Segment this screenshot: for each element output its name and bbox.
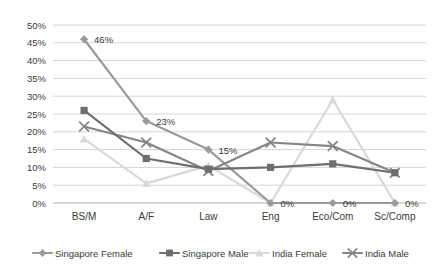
series-line — [84, 100, 395, 203]
series-lines — [84, 39, 395, 203]
marker-square — [166, 250, 173, 257]
marker-diamond — [39, 249, 47, 257]
marker-square — [391, 169, 398, 176]
data-label: 0% — [405, 198, 419, 209]
marker-square — [205, 166, 212, 173]
x-axis-tick-label: Eco/Com — [312, 211, 353, 222]
marker-triangle — [329, 96, 337, 104]
y-axis-tick-label: 35% — [27, 73, 47, 84]
x-axis-tick-label: Law — [199, 211, 218, 222]
y-axis-tick-label: 45% — [27, 37, 47, 48]
series-line — [84, 110, 395, 172]
marker-diamond — [329, 199, 337, 207]
y-axis-tick-label: 5% — [32, 180, 46, 191]
y-axis-ticks: 0%5%10%15%20%25%30%35%40%45%50% — [27, 20, 47, 209]
marker-square — [329, 160, 336, 167]
marker-triangle — [80, 135, 88, 143]
marker-square — [143, 155, 150, 162]
y-axis-tick-label: 25% — [27, 109, 47, 120]
legend-label: Singapore Male — [182, 248, 249, 259]
y-axis-tick-label: 20% — [27, 126, 47, 137]
data-label: 46% — [94, 34, 114, 45]
y-axis-tick-label: 0% — [32, 198, 46, 209]
data-label: 0% — [281, 198, 295, 209]
legend-item[interactable]: India Male — [343, 248, 409, 259]
marker-square — [267, 164, 274, 171]
legend-item[interactable]: India Female — [250, 248, 327, 259]
legend-label: India Female — [272, 248, 327, 259]
y-axis-tick-label: 10% — [27, 162, 47, 173]
x-axis-tick-label: BS/M — [72, 211, 96, 222]
x-axis-tick-label: Eng — [262, 211, 280, 222]
legend-item[interactable]: Singapore Female — [33, 248, 133, 259]
legend: Singapore FemaleSingapore MaleIndia Fema… — [33, 248, 409, 259]
marker-square — [80, 107, 87, 114]
line-chart: 0%5%10%15%20%25%30%35%40%45%50% BS/MA/FL… — [0, 0, 435, 272]
y-axis-tick-label: 40% — [27, 55, 47, 66]
data-label: 23% — [156, 116, 176, 127]
y-axis-tick-label: 50% — [27, 20, 47, 31]
y-axis-tick-label: 15% — [27, 144, 47, 155]
legend-label: India Male — [365, 248, 409, 259]
x-axis-ticks: BS/MA/FLawEngEco/ComSc/Comp — [72, 211, 416, 222]
x-axis-tick-label: Sc/Comp — [374, 211, 416, 222]
series-line — [84, 39, 395, 203]
data-label: 0% — [343, 198, 357, 209]
legend-item[interactable]: Singapore Male — [160, 248, 249, 259]
legend-label: Singapore Female — [55, 248, 133, 259]
chart-canvas: 0%5%10%15%20%25%30%35%40%45%50% BS/MA/FL… — [0, 0, 435, 272]
y-axis-tick-label: 30% — [27, 91, 47, 102]
data-label: 15% — [218, 145, 238, 156]
x-axis-tick-label: A/F — [138, 211, 154, 222]
